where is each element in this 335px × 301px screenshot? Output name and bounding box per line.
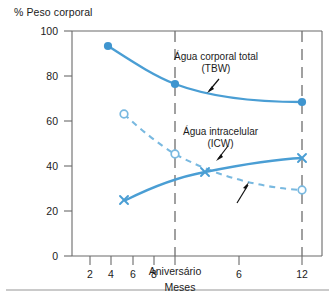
y-tick-marks [64,31,72,256]
x-tick-label-aniversario: Aniversário [140,265,210,277]
annotation-tbw-line2: (TBW) [174,63,258,75]
annotation-tbw-line1: Água corporal total [174,51,258,62]
x-tick-label-12: 12 [291,268,313,280]
x-tick-marks [90,256,302,265]
y-tick-label-60: 60 [24,115,58,127]
x-tick-label-6b: 6 [229,268,249,280]
data-point-tbw-3 [298,98,306,106]
y-tick-label-80: 80 [24,70,58,82]
y-tick-label-0: 0 [24,250,58,262]
x-axis-title: Meses [150,281,210,293]
x-tick-label-2: 2 [80,268,100,280]
ecw-arrow-icon [237,182,249,203]
annotation-icw: Água intracelular (ICW) [183,126,258,149]
data-point-tbw-1 [104,42,112,50]
annotation-tbw: Água corporal total (TBW) [174,51,258,74]
data-point-tbw-2 [171,80,179,88]
y-tick-label-40: 40 [24,160,58,172]
data-point-ecw-3 [298,186,306,194]
annotation-icw-line2: (ICW) [183,138,258,150]
y-tick-label-20: 20 [24,205,58,217]
data-point-ecw-1 [120,110,128,118]
x-tick-label-4: 4 [101,268,121,280]
chart-figure: % Peso corporal [0,0,335,301]
annotation-icw-line1: Água intracelular [183,126,258,137]
tbw-arrow-icon [207,79,219,93]
y-tick-label-100: 100 [24,25,58,37]
series-ecw [120,110,306,194]
series-icw [120,154,306,204]
data-point-ecw-2 [171,150,179,158]
